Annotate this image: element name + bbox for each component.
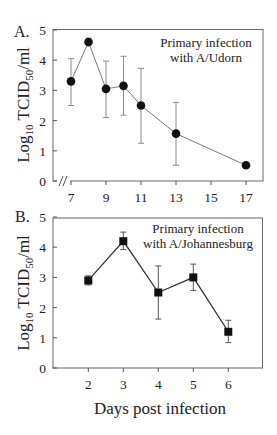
x-tick-label: 15 bbox=[204, 190, 218, 205]
y-axis-ticks: 012345 bbox=[39, 23, 57, 189]
x-tick-label: 9 bbox=[103, 190, 110, 205]
data-point-circle-icon bbox=[84, 38, 93, 47]
panel-a: 012345 7911131517 A. Primary infection w… bbox=[14, 23, 263, 205]
y-tick-label: 1 bbox=[39, 144, 46, 159]
x-tick-label: 3 bbox=[120, 377, 127, 392]
annotation-line-1: Primary infection bbox=[152, 221, 244, 236]
y-tick-label: 4 bbox=[39, 53, 46, 68]
y-tick-label: 1 bbox=[39, 331, 46, 346]
y-tick-label: 4 bbox=[39, 240, 46, 255]
y-tick-label: 3 bbox=[39, 270, 46, 285]
y-tick-label: 5 bbox=[39, 23, 46, 38]
annotation-line-2: with A/Udorn bbox=[170, 50, 242, 65]
x-tick-label: 2 bbox=[85, 377, 92, 392]
data-point-circle-icon bbox=[242, 161, 251, 170]
x-axis-label: Days post infection bbox=[94, 399, 227, 418]
x-tick-label: 11 bbox=[135, 190, 148, 205]
annotation-line-2: with A/Johannesburg bbox=[143, 236, 253, 251]
x-tick-label: 17 bbox=[239, 190, 253, 205]
data-point-square-icon bbox=[224, 328, 232, 336]
panel-label: A. bbox=[14, 23, 30, 40]
y-tick-label: 2 bbox=[39, 114, 46, 129]
data-point-circle-icon bbox=[172, 129, 181, 138]
data-point-circle-icon bbox=[102, 85, 111, 94]
annotation-line-1: Primary infection bbox=[160, 35, 252, 50]
x-axis-ticks: 23456 bbox=[85, 368, 232, 392]
x-tick-label: 7 bbox=[68, 190, 75, 205]
x-tick-label: 6 bbox=[225, 377, 232, 392]
x-axis-ticks: 7911131517 bbox=[68, 181, 253, 205]
y-tick-label: 0 bbox=[39, 174, 46, 189]
y-tick-label: 2 bbox=[39, 301, 46, 316]
data-point-circle-icon bbox=[137, 101, 146, 110]
x-tick-label: 5 bbox=[190, 377, 197, 392]
x-tick-label: 13 bbox=[169, 190, 183, 205]
x-tick-label: 4 bbox=[155, 377, 162, 392]
y-tick-label: 5 bbox=[39, 210, 46, 225]
data-point-square-icon bbox=[154, 289, 162, 297]
y-axis-ticks: 012345 bbox=[39, 210, 57, 376]
data-point-circle-icon bbox=[67, 77, 76, 86]
y-tick-label: 3 bbox=[39, 83, 46, 98]
axis-break-icon bbox=[57, 176, 70, 186]
panel-label: B. bbox=[15, 208, 30, 225]
data-point-square-icon bbox=[84, 276, 92, 284]
figure: 012345 7911131517 A. Primary infection w… bbox=[0, 0, 277, 435]
data-point-square-icon bbox=[119, 237, 127, 245]
y-tick-label: 0 bbox=[39, 361, 46, 376]
y-axis-label: Log10 TCID50/ml bbox=[14, 47, 35, 163]
panel-b: 012345 23456 B. Primary infection with A… bbox=[14, 208, 263, 418]
y-axis-label: Log10 TCID50/ml bbox=[14, 235, 35, 351]
data-point-circle-icon bbox=[119, 82, 128, 91]
data-point-square-icon bbox=[189, 273, 197, 281]
